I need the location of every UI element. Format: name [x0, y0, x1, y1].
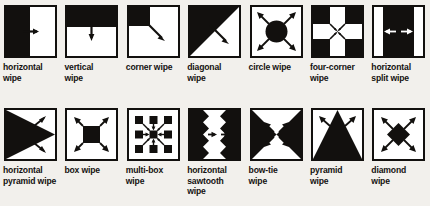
wipe-caption: horizontal pyramid wipe [3, 165, 63, 186]
wipe-item-bow-tie-wipe: bow-tie wipe [246, 103, 307, 206]
wipe-caption: horizontal wipe [3, 62, 63, 83]
wipe-row-top: horizontal wipe vertical wipe [0, 0, 430, 103]
wipe-item-horizontal-sawtooth-wipe: horizontal sawtooth wipe [184, 103, 245, 206]
wipe-caption: diagonal wipe [187, 62, 247, 83]
wipe-item-box-wipe: box wipe [61, 103, 122, 206]
corner-wipe-icon [127, 5, 180, 58]
wipe-caption: box wipe [64, 165, 124, 176]
wipe-item-horizontal-pyramid-wipe: horizontal pyramid wipe [0, 103, 61, 206]
box-wipe-icon [65, 108, 118, 161]
horizontal-wipe-icon [4, 5, 57, 58]
wipe-item-multi-box-wipe: multi-box wipe [123, 103, 184, 206]
wipe-caption: horizontal split wipe [371, 62, 430, 83]
wipe-item-horizontal-split-wipe: horizontal split wipe [368, 0, 429, 103]
wipe-item-horizontal-wipe: horizontal wipe [0, 0, 61, 103]
horizontal-sawtooth-wipe-icon [188, 108, 241, 161]
wipe-caption: pyramid wipe [310, 165, 370, 186]
wipe-item-four-corner-wipe: four-corner wipe [307, 0, 368, 103]
bow-tie-wipe-icon [250, 108, 303, 161]
wipe-caption: diamond wipe [371, 165, 430, 186]
wipe-row-bottom: horizontal pyramid wipe [0, 103, 430, 206]
wipe-item-diagonal-wipe: diagonal wipe [184, 0, 245, 103]
diamond-wipe-icon [372, 108, 425, 161]
wipe-caption: bow-tie wipe [249, 165, 309, 186]
wipe-caption: vertical wipe [64, 62, 124, 83]
wipe-item-diamond-wipe: diamond wipe [368, 103, 429, 206]
horizontal-pyramid-wipe-icon [4, 108, 57, 161]
four-corner-wipe-icon [311, 5, 364, 58]
wipe-types-figure: horizontal wipe vertical wipe [0, 0, 430, 206]
vertical-wipe-icon [65, 5, 118, 58]
wipe-item-pyramid-wipe: pyramid wipe [307, 103, 368, 206]
wipe-item-vertical-wipe: vertical wipe [61, 0, 122, 103]
pyramid-wipe-icon [311, 108, 364, 161]
wipe-caption: multi-box wipe [126, 165, 186, 186]
multi-box-wipe-icon [127, 108, 180, 161]
wipe-item-circle-wipe: circle wipe [246, 0, 307, 103]
diagonal-wipe-icon [188, 5, 241, 58]
wipe-caption: circle wipe [249, 62, 309, 73]
wipe-item-corner-wipe: corner wipe [123, 0, 184, 103]
horizontal-split-wipe-icon [372, 5, 425, 58]
circle-wipe-icon [250, 5, 303, 58]
wipe-caption: four-corner wipe [310, 62, 370, 83]
wipe-caption: horizontal sawtooth wipe [187, 165, 247, 197]
wipe-caption: corner wipe [126, 62, 186, 73]
